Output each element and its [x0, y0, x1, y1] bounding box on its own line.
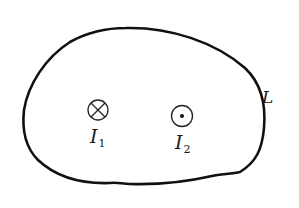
- current-label-I1: I1: [90, 127, 106, 146]
- current-label-I2-main: I: [175, 131, 183, 153]
- loop-label-L: L: [262, 89, 273, 106]
- current-label-I2-subscript: 2: [184, 143, 191, 156]
- current-label-I1-main: I: [90, 125, 98, 147]
- closed-loop-L: [23, 28, 264, 184]
- cross-circle-icon: [88, 100, 108, 120]
- diagram-canvas: I1 I2 L: [0, 0, 299, 208]
- diagram-graphic: [0, 0, 299, 208]
- dot-circle-icon: [172, 106, 193, 127]
- current-label-I2: I2: [175, 133, 191, 152]
- current-label-I1-subscript: 1: [99, 137, 106, 150]
